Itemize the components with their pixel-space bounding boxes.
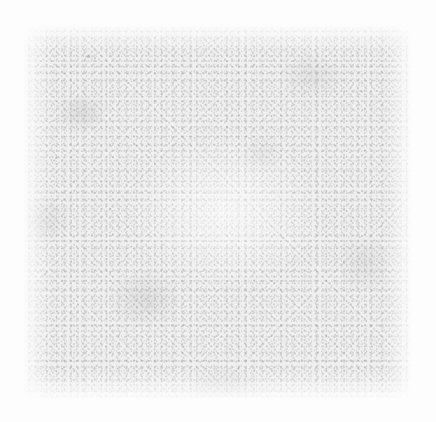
texture-square (24, 26, 412, 398)
image-canvas (0, 0, 436, 422)
texture-edge-fade (24, 26, 412, 398)
